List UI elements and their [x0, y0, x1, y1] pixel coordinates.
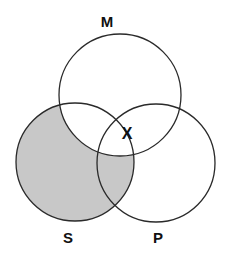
- label-m: M: [101, 13, 114, 30]
- label-p: P: [153, 229, 163, 246]
- label-s: S: [63, 229, 73, 246]
- x-mark: X: [122, 125, 133, 142]
- shaded-region-s-minus-m: [0, 0, 228, 254]
- venn-diagram: M S P X: [0, 0, 228, 254]
